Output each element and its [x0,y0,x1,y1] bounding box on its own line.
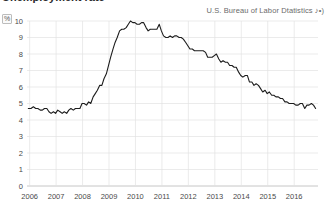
x-axis-tick-label: 2013 [206,192,223,201]
x-axis-ticks: 2006200720082009201020112012201320142015… [21,192,302,201]
y-axis-tick-label: 3 [19,132,23,141]
y-axis-ticks: 012345678910 [15,17,23,191]
y-axis-tick-label: 8 [19,50,23,59]
gridlines [27,21,318,186]
plot-area: 012345678910 200620072008200920102011201… [0,0,330,207]
y-axis-tick-label: 5 [19,99,23,108]
y-axis-tick-label: 7 [19,66,23,75]
x-axis-tick-label: 2011 [154,192,170,201]
y-axis-tick-label: 0 [19,182,23,191]
x-axis-tick-label: 2009 [101,192,118,201]
series-line [28,21,315,113]
x-axis-tick-label: 2016 [286,192,303,201]
y-axis-tick-label: 4 [19,116,23,125]
x-axis-tick-label: 2014 [233,192,250,201]
x-axis-tick-label: 2010 [127,192,144,201]
unemployment-rate-chart: Unemployment rate U.S. Bureau of Labor D… [0,0,330,207]
y-axis-tick-label: 9 [19,33,23,42]
x-axis-tick-label: 2006 [21,192,38,201]
y-axis-tick-label: 10 [15,17,23,26]
x-axis-tick-label: 2012 [180,192,197,201]
x-axis-tick-label: 2008 [74,192,91,201]
x-axis-tick-label: 2015 [259,192,276,201]
y-axis-tick-label: 2 [19,149,23,158]
y-axis-tick-label: 1 [19,165,23,174]
x-axis-tick-label: 2007 [48,192,65,201]
data-series [28,21,315,113]
y-axis-tick-label: 6 [19,83,23,92]
